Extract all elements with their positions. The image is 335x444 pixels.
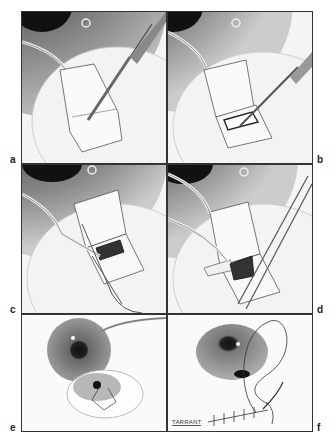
figure: a b c d e f TARRANT bbox=[0, 0, 335, 444]
panel-label-f: f bbox=[317, 422, 320, 433]
panel-f bbox=[168, 314, 312, 431]
panel-b-illustration bbox=[168, 12, 312, 163]
panel-a-illustration bbox=[22, 12, 166, 163]
panel-c-illustration bbox=[22, 164, 166, 313]
panel-label-d: d bbox=[317, 304, 323, 315]
artist-signature: TARRANT bbox=[172, 419, 201, 426]
panel-b bbox=[168, 12, 312, 163]
panel-d-illustration bbox=[168, 164, 312, 313]
panel-f-illustration bbox=[168, 314, 312, 431]
panel-c bbox=[22, 164, 166, 313]
panel-label-b: b bbox=[317, 154, 323, 165]
panel-divider-horizontal-1 bbox=[21, 163, 313, 165]
panel-d bbox=[168, 164, 312, 313]
panel-label-e: e bbox=[10, 422, 16, 433]
panel-a bbox=[22, 12, 166, 163]
panel-e bbox=[22, 314, 166, 431]
panel-divider-vertical bbox=[166, 11, 168, 432]
panel-label-a: a bbox=[10, 154, 16, 165]
panel-e-illustration bbox=[22, 314, 166, 431]
panel-label-c: c bbox=[10, 304, 16, 315]
panel-divider-horizontal-2 bbox=[21, 313, 313, 315]
